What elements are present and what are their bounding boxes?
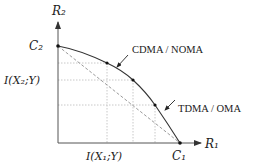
x-axis-label: R₁: [204, 137, 219, 151]
tdma-callout-arrow: [165, 100, 175, 110]
i-x1-label: I(X₁;Y): [85, 150, 122, 163]
c2-label: C₂: [29, 39, 43, 53]
capacity-region-diagram: R₂ R₁ C₂ C₁ I(X₂;Y) I(X₁;Y) CDMA / NOMA …: [0, 0, 253, 168]
cdma-noma-label: CDMA / NOMA: [132, 44, 204, 55]
c1-label: C₁: [172, 149, 186, 163]
tdma-oma-label: TDMA / OMA: [178, 103, 241, 114]
y-axis-label: R₂: [51, 4, 66, 18]
tdma-boundary-line: [58, 46, 180, 143]
cdma-callout-arrow: [117, 55, 128, 67]
grid-lines: [58, 63, 155, 143]
i-x2-label: I(X₂;Y): [3, 74, 40, 87]
